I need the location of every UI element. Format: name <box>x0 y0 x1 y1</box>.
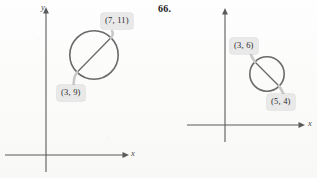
left-y-axis <box>43 7 49 172</box>
left-callout-point-7-11: (7, 11) <box>101 13 133 29</box>
left-axis-label-x: x <box>131 148 135 158</box>
right-axis-label-x: x <box>308 118 312 128</box>
figure-right: y <box>157 0 317 178</box>
left-leader-line-7-11 <box>111 31 113 38</box>
textbook-figure-page: y x (7, 11) (3, 9) y <box>0 0 317 178</box>
right-callout-point-3-6: (3, 6) <box>230 38 258 54</box>
problem-number: 66. <box>158 3 171 14</box>
right-x-axis <box>187 122 305 128</box>
left-axis-label-y: y <box>41 2 45 12</box>
left-x-axis <box>5 152 129 158</box>
right-y-axis <box>222 8 228 142</box>
figure-left: y x (7, 11) (3, 9) <box>0 0 157 178</box>
right-diameter-segment <box>255 62 279 86</box>
left-callout-point-3-9: (3, 9) <box>57 85 85 101</box>
right-graph-drawing <box>157 0 317 178</box>
left-diameter-segment <box>77 38 111 73</box>
right-callout-point-5-4: (5, 4) <box>267 94 295 110</box>
